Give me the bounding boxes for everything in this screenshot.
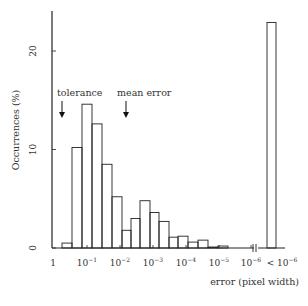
histogram-bar	[72, 148, 82, 248]
histogram-bar	[169, 237, 178, 248]
y-tick-label: 0	[28, 245, 38, 251]
histogram-bar	[122, 230, 131, 248]
histogram-bar	[178, 236, 188, 248]
tolerance-arrow-icon	[59, 101, 65, 118]
histogram-bar	[188, 242, 198, 248]
tolerance-annotation: tolerance	[57, 87, 103, 98]
mean-error-arrow-icon	[123, 101, 129, 118]
histogram-bar	[140, 201, 150, 248]
x-tick-label: 10−5	[209, 256, 229, 268]
histogram-bar	[112, 197, 122, 248]
histogram-bar	[150, 213, 159, 248]
histogram-bar	[159, 221, 169, 248]
axis-break-icon	[253, 244, 256, 252]
histogram-bar	[131, 218, 140, 248]
y-tick-label: 20	[28, 45, 38, 57]
histogram-bar-below-1e-6	[267, 22, 276, 248]
x-tick-label: 10−1	[77, 256, 97, 268]
x-tick-label: 10−4	[176, 256, 196, 268]
bars	[62, 22, 276, 248]
histogram-bar	[198, 240, 208, 248]
x-tick-label: < 10−6	[267, 256, 298, 268]
histogram-bar	[82, 104, 92, 248]
x-tick-label: 10−2	[110, 256, 130, 268]
y-axis-label: Occurrences (%)	[10, 90, 21, 171]
histogram-chart: 01020 110−110−210−310−410−510−6< 10−6 Oc…	[0, 0, 308, 306]
x-tick-label: 10−3	[143, 256, 163, 268]
histogram-bar	[102, 164, 112, 248]
x-tick-label: 10−6	[241, 256, 261, 268]
histogram-bar	[92, 124, 102, 248]
x-tick-label: 1	[50, 258, 56, 268]
histogram-bar	[218, 246, 228, 248]
y-tick-label: 10	[28, 144, 38, 156]
x-axis-label: error (pixel width)	[210, 276, 299, 287]
histogram-bar	[62, 243, 72, 248]
mean-error-annotation: mean error	[117, 87, 172, 98]
